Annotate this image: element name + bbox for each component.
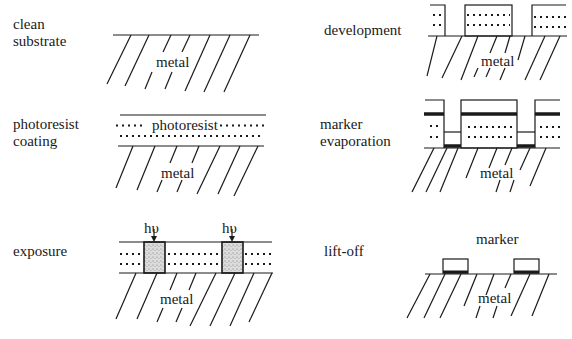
exposed-region-left [144,242,165,273]
resist-block-right [535,100,560,148]
resist-block-left [430,5,445,36]
resist-dots [120,254,272,264]
arrow-down-icon [151,236,157,242]
photoresist-label: photoresist [152,117,219,133]
metal-label: metal [478,290,511,306]
metal-hatch [116,273,272,326]
light-arrows [154,229,232,240]
arrow-down-icon [229,236,235,242]
resist-block-left [425,100,444,148]
resist-block-right [532,5,566,36]
marker-label: marker [476,231,518,247]
metal-hatch [412,148,546,192]
metal-label: metal [481,53,514,69]
panel-lift-off [407,259,557,318]
exposed-region-right [222,242,243,273]
resist-dots [433,15,566,27]
resist-block-middle [461,100,517,148]
metal-label: metal [480,165,513,181]
panel-exposure [116,229,273,326]
light-label-left: hυ [144,220,159,236]
light-label-right: hυ [222,220,237,236]
process-diagram: metal photoresist metal [0,0,572,339]
metal-label: metal [160,291,193,307]
metal-label: metal [156,54,189,70]
resist-block-middle [465,5,512,36]
metal-label: metal [161,165,194,181]
